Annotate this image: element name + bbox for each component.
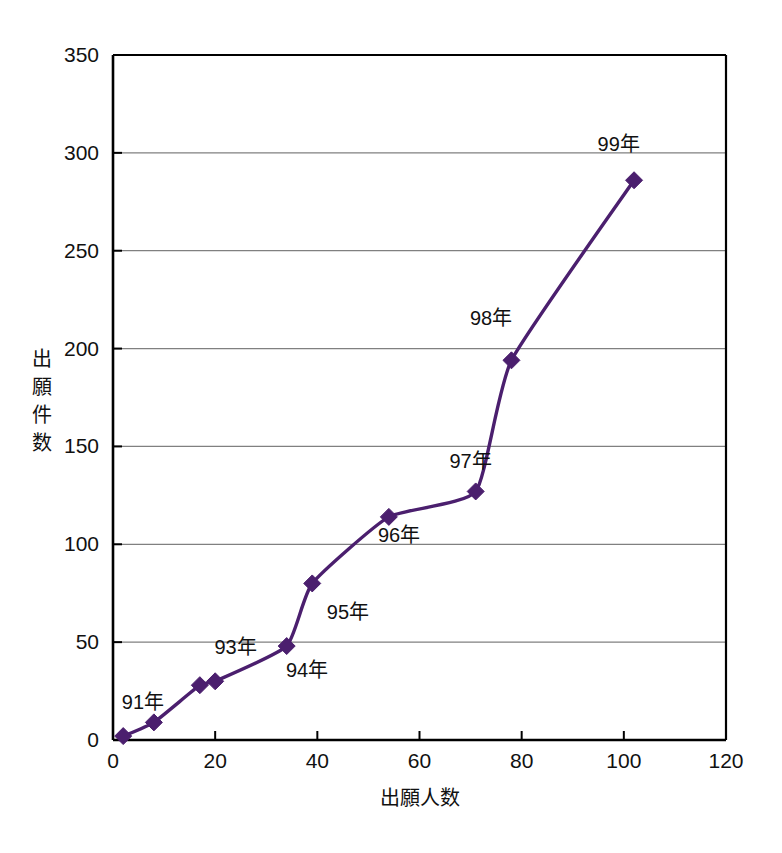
y-axis-title-char: 出: [32, 348, 52, 370]
x-tick-label: 120: [708, 749, 743, 772]
point-label: 95年: [327, 601, 369, 623]
point-label: 98年: [470, 307, 512, 329]
y-tick-label: 150: [64, 434, 99, 457]
chart-container: 020406080100120 050100150200250300350 91…: [0, 0, 782, 853]
y-axis-title-char: 件: [32, 404, 52, 426]
y-tick-label: 50: [76, 630, 99, 653]
point-label: 91年: [122, 691, 164, 713]
x-axis-title-text: 出願人数: [380, 787, 460, 809]
line-chart: 020406080100120 050100150200250300350 91…: [0, 0, 782, 853]
x-tick-label: 80: [510, 749, 533, 772]
y-axis-title-char: 願: [32, 376, 52, 398]
y-tick-label: 100: [64, 532, 99, 555]
y-tick-label: 200: [64, 337, 99, 360]
point-label: 96年: [378, 524, 420, 546]
point-label: 93年: [214, 636, 256, 658]
point-label: 97年: [449, 450, 491, 472]
x-tick-label: 100: [606, 749, 641, 772]
chart-background: [0, 0, 782, 853]
x-tick-label: 60: [408, 749, 431, 772]
x-tick-label: 0: [107, 749, 119, 772]
y-tick-label: 0: [87, 728, 99, 751]
x-axis-title: 出願人数: [380, 787, 460, 809]
point-label: 99年: [598, 133, 640, 155]
x-tick-label: 40: [306, 749, 329, 772]
x-tick-label: 20: [203, 749, 226, 772]
y-tick-label: 300: [64, 141, 99, 164]
point-label: 94年: [286, 659, 328, 681]
y-tick-label: 250: [64, 239, 99, 262]
y-tick-label: 350: [64, 43, 99, 66]
y-axis-title-char: 数: [32, 432, 52, 454]
